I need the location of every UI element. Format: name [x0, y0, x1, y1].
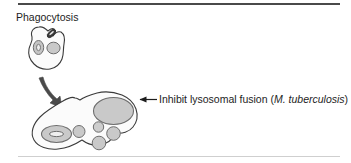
upper-cell-nucleolus [37, 44, 41, 50]
figure-container: Phagocytosis Inhibit lysosomal fusion (M… [0, 0, 351, 163]
lower-cell-nucleolus [50, 131, 64, 136]
lysosome-3 [107, 127, 121, 141]
lysosome-4 [92, 136, 106, 150]
cell-diagram [0, 0, 351, 163]
inhibit-label-suffix: ) [345, 93, 349, 105]
inhibit-label-organism: M. tuberculosis [274, 93, 345, 105]
pointer-arrow [140, 97, 158, 103]
inhibit-lysosomal-fusion-label: Inhibit lysosomal fusion (M. tuberculosi… [159, 93, 348, 105]
lysosome-1 [73, 126, 85, 138]
phagocytosis-label: Phagocytosis [16, 11, 78, 23]
large-phagosome [94, 98, 134, 125]
inhibit-label-prefix: Inhibit lysosomal fusion ( [159, 93, 274, 105]
lysosome-2 [93, 122, 103, 132]
upper-cell-vesicle [47, 42, 60, 54]
